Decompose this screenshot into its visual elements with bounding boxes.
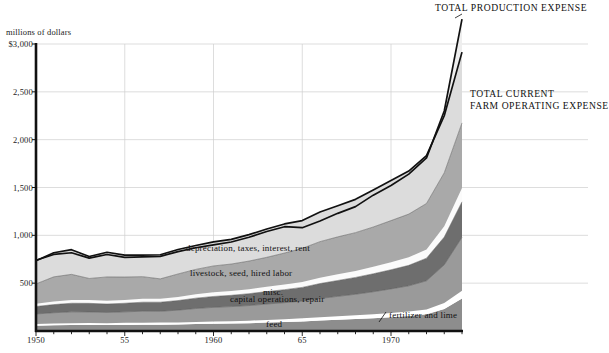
y-axis-unit-label: millions of dollars (6, 27, 71, 37)
x-tick-label: 1960 (205, 335, 223, 345)
series-label-feed: feed (266, 319, 282, 329)
total-current-farm-operating-expense-label-line1: TOTAL CURRENT (470, 88, 609, 100)
series-label-livestock-seed-hired-labor: livestock, seed, hired labor (190, 268, 292, 278)
y-tick-label: $3,000 (8, 39, 33, 49)
total-current-farm-operating-expense-label-line2: FARM OPERATING EXPENSE (470, 100, 609, 112)
series-label-depreciation-taxes-interest-rent: depreciation, taxes, interest, rent (186, 243, 310, 253)
y-tick-label: 500 (20, 278, 33, 288)
series-label-misc-: misc. (263, 287, 283, 297)
total-production-expense-label: TOTAL PRODUCTION EXPENSE (435, 2, 587, 14)
y-tick-label: 2,500 (13, 87, 33, 97)
total-production-leader-line (455, 14, 462, 18)
total-current-farm-operating-expense-label: TOTAL CURRENT FARM OPERATING EXPENSE (470, 88, 609, 111)
y-tick-label: 1,000 (13, 230, 33, 240)
x-tick-label: 65 (298, 335, 307, 345)
y-tick-label: 1,500 (13, 183, 33, 193)
y-tick-label: 2,000 (13, 135, 33, 145)
series-label-fertilizer-and-lime: fertilizer and lime (389, 310, 457, 320)
x-tick-label: 55 (120, 335, 129, 345)
x-tick-label: 1970 (382, 335, 400, 345)
x-tick-label: 1950 (27, 335, 45, 345)
